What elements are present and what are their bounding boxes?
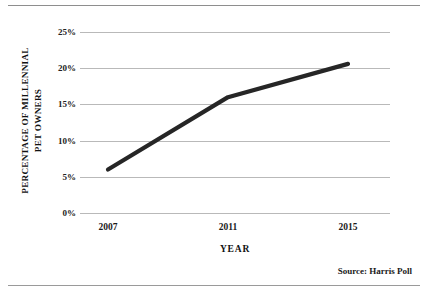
- y-axis-title-line-1: PERCENTAGE OF MILLENNIAL: [19, 26, 32, 216]
- x-axis-title: YEAR: [80, 244, 390, 254]
- y-tick-label: 10%: [46, 136, 76, 146]
- y-axis-title: PERCENTAGE OF MILLENNIAL PET OWNERS: [19, 26, 44, 216]
- chart-figure: PERCENTAGE OF MILLENNIAL PET OWNERS 25% …: [0, 0, 428, 295]
- y-tick-label: 20%: [46, 63, 76, 73]
- x-axis-tick-labels: 2007 2011 2015: [0, 222, 428, 238]
- y-axis-tick-labels: 25% 20% 15% 10% 5% 0%: [46, 0, 76, 295]
- y-tick-label: 5%: [46, 172, 76, 182]
- data-series-line: [80, 32, 390, 213]
- x-tick-label: 2015: [339, 222, 358, 232]
- y-tick-label: 0%: [46, 208, 76, 218]
- y-tick-label: 25%: [46, 27, 76, 37]
- y-tick-label: 15%: [46, 99, 76, 109]
- plot-area: [80, 32, 390, 213]
- source-note: Source: Harris Poll: [338, 266, 412, 276]
- x-tick-label: 2011: [219, 222, 237, 232]
- y-axis-title-line-2: PET OWNERS: [31, 26, 44, 216]
- axis-line-0: [80, 213, 390, 214]
- x-tick-label: 2007: [99, 222, 118, 232]
